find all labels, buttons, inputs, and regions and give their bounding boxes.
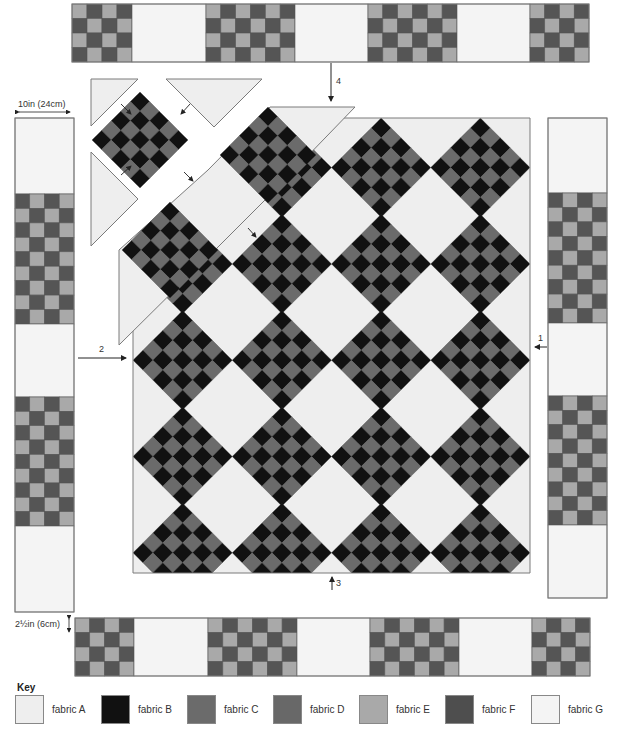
checker-square — [45, 281, 60, 295]
checker-square — [59, 281, 74, 295]
fabric-label: fabric E — [396, 704, 430, 715]
checker-square — [442, 19, 457, 34]
checker-square — [563, 439, 578, 453]
checker-square — [15, 266, 30, 280]
checker-square — [59, 194, 74, 208]
fabric-swatch — [445, 695, 474, 724]
checker-square — [530, 33, 545, 48]
checker-square — [102, 48, 117, 63]
quilt-assembly-diagram — [0, 0, 621, 739]
checker-square — [30, 194, 45, 208]
checker-square — [282, 633, 297, 648]
checker-square — [30, 252, 45, 266]
checker-square — [45, 397, 60, 411]
checker-square — [90, 662, 105, 677]
checker-square — [221, 4, 236, 19]
checker-square — [548, 482, 563, 496]
checker-square — [413, 48, 428, 63]
diamond-square — [461, 573, 481, 593]
checker-square — [59, 469, 74, 483]
checker-square — [368, 4, 383, 19]
checker-square — [563, 453, 578, 467]
checker-square — [592, 511, 607, 525]
piece-arrow — [181, 104, 190, 114]
checker-square — [59, 512, 74, 526]
checker-square — [398, 4, 413, 19]
fabric-swatch — [101, 695, 130, 724]
checker-square — [59, 440, 74, 454]
checker-square — [413, 19, 428, 34]
checker-square — [400, 633, 415, 648]
step-1-label: 1 — [538, 333, 543, 343]
checker-square — [545, 33, 560, 48]
checker-square — [398, 33, 413, 48]
checker-square — [72, 19, 87, 34]
checker-square — [563, 280, 578, 294]
checker-square — [280, 19, 295, 34]
checker-square — [30, 237, 45, 251]
checker-square — [267, 618, 282, 633]
checker-square — [30, 497, 45, 511]
checker-square — [398, 19, 413, 34]
checker-square — [548, 496, 563, 510]
checker-square — [427, 48, 442, 63]
checker-square — [370, 647, 385, 662]
checker-square — [253, 618, 268, 633]
checker-square — [368, 33, 383, 48]
checker-square — [59, 454, 74, 468]
diamond-square — [272, 583, 292, 603]
strip-measure-label: 2½in (6cm) — [15, 619, 60, 629]
checker-square — [30, 469, 45, 483]
checker-square — [563, 482, 578, 496]
checker-square — [561, 647, 576, 662]
checker-square — [578, 453, 593, 467]
checker-square — [45, 469, 60, 483]
checker-square — [45, 223, 60, 237]
fabric-label: fabric G — [568, 704, 603, 715]
checker-square — [119, 647, 134, 662]
checker-square — [15, 454, 30, 468]
diamond-square — [183, 573, 203, 593]
setting-triangle-top — [166, 79, 262, 127]
checker-square — [15, 252, 30, 266]
checker-square — [592, 265, 607, 279]
checker-square — [385, 647, 400, 662]
checker-square — [563, 251, 578, 265]
checker-square — [208, 647, 223, 662]
checker-square — [280, 33, 295, 48]
checker-square — [578, 396, 593, 410]
checker-square — [578, 511, 593, 525]
checker-square — [592, 251, 607, 265]
checker-square — [532, 662, 547, 677]
checker-square — [223, 618, 238, 633]
checker-square — [30, 295, 45, 309]
checker-square — [592, 280, 607, 294]
diamond-square — [163, 573, 183, 593]
fabric-label: fabric A — [52, 704, 85, 715]
diamond-square — [381, 573, 401, 593]
checker-square — [442, 33, 457, 48]
checker-square — [547, 618, 562, 633]
plain-rectangle — [132, 4, 206, 62]
key-item-fabric-G: fabric G — [531, 694, 603, 724]
checker-square — [72, 48, 87, 63]
checker-square — [415, 662, 430, 677]
checker-square — [429, 647, 444, 662]
checker-square — [561, 633, 576, 648]
fabric-label: fabric D — [310, 704, 344, 715]
checker-square — [15, 310, 30, 324]
checker-square — [15, 469, 30, 483]
checker-square — [102, 19, 117, 34]
checker-square — [117, 33, 132, 48]
checker-square — [548, 410, 563, 424]
diamond-square — [262, 573, 282, 593]
checker-square — [578, 251, 593, 265]
checker-square — [30, 310, 45, 324]
checker-square — [592, 236, 607, 250]
piece-arrow — [184, 172, 193, 181]
checker-square — [59, 237, 74, 251]
checker-square — [383, 33, 398, 48]
checker-square — [563, 468, 578, 482]
checker-square — [45, 208, 60, 222]
checker-square — [117, 19, 132, 34]
